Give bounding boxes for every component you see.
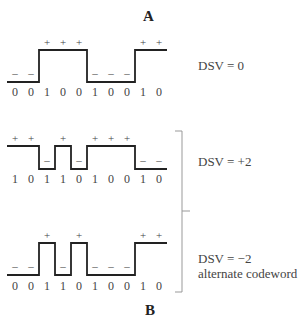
polarity-sign: – bbox=[107, 260, 114, 272]
polarity-sign: – bbox=[27, 260, 34, 272]
polarity-sign: + bbox=[76, 36, 82, 48]
polarity-sign: + bbox=[124, 132, 130, 144]
polarity-sign: + bbox=[44, 36, 50, 48]
polarity-sign: + bbox=[140, 229, 146, 241]
polarity-sign: – bbox=[59, 260, 66, 272]
alternate-codeword-note: alternate codeword bbox=[198, 266, 297, 282]
polarity-sign: + bbox=[140, 36, 146, 48]
polarity-sign: + bbox=[60, 132, 66, 144]
polarity-sign: – bbox=[123, 260, 130, 272]
polarity-sign: – bbox=[123, 67, 130, 79]
polarity-sign: – bbox=[139, 154, 146, 166]
bit-digit: 1 bbox=[92, 279, 98, 293]
bit-digit: 1 bbox=[60, 172, 66, 186]
bit-digit: 0 bbox=[76, 172, 82, 186]
bit-digit: 1 bbox=[140, 85, 146, 99]
bit-digit: 0 bbox=[156, 172, 162, 186]
polarity-sign: – bbox=[91, 67, 98, 79]
bit-digit: 1 bbox=[44, 279, 50, 293]
bit-digit: 1 bbox=[92, 172, 98, 186]
bit-digit: 0 bbox=[12, 279, 18, 293]
polarity-sign: – bbox=[43, 154, 50, 166]
polarity-sign: – bbox=[75, 154, 82, 166]
bit-digit: 0 bbox=[28, 172, 34, 186]
bit-digit: 0 bbox=[156, 85, 162, 99]
polarity-sign: + bbox=[44, 229, 50, 241]
bit-digit: 0 bbox=[12, 85, 18, 99]
polarity-sign: + bbox=[108, 132, 114, 144]
bit-digit: 1 bbox=[44, 172, 50, 186]
polarity-sign: + bbox=[92, 132, 98, 144]
polarity-sign: + bbox=[76, 229, 82, 241]
bit-digit: 0 bbox=[76, 279, 82, 293]
bit-digit: 0 bbox=[124, 172, 130, 186]
polarity-sign: + bbox=[12, 132, 18, 144]
polarity-sign: + bbox=[156, 36, 162, 48]
bit-digit: 1 bbox=[140, 172, 146, 186]
dsv-label-b2: DSV = −2 bbox=[198, 251, 251, 267]
polarity-sign: – bbox=[91, 260, 98, 272]
bit-digit: 1 bbox=[140, 279, 146, 293]
polarity-sign: – bbox=[155, 154, 162, 166]
bit-digit: 0 bbox=[108, 172, 114, 186]
bit-digit: 0 bbox=[60, 85, 66, 99]
bit-digit: 0 bbox=[76, 85, 82, 99]
polarity-sign: – bbox=[11, 260, 18, 272]
bit-digit: 1 bbox=[12, 172, 18, 186]
bit-digit: 1 bbox=[92, 85, 98, 99]
group-bracket bbox=[175, 131, 182, 292]
bit-digit: 0 bbox=[28, 279, 34, 293]
polarity-sign: – bbox=[27, 67, 34, 79]
bit-digit: 0 bbox=[124, 279, 130, 293]
polarity-sign: + bbox=[156, 229, 162, 241]
polarity-sign: + bbox=[60, 36, 66, 48]
dsv-label-b1: DSV = +2 bbox=[198, 154, 251, 170]
polarity-sign: + bbox=[28, 132, 34, 144]
bit-digit: 0 bbox=[124, 85, 130, 99]
polarity-sign: – bbox=[11, 67, 18, 79]
bit-digit: 0 bbox=[28, 85, 34, 99]
bit-digit: 1 bbox=[44, 85, 50, 99]
bit-digit: 0 bbox=[108, 85, 114, 99]
bit-digit: 0 bbox=[156, 279, 162, 293]
bit-digit: 1 bbox=[60, 279, 66, 293]
polarity-sign: – bbox=[107, 67, 114, 79]
dsv-label-a: DSV = 0 bbox=[198, 58, 244, 74]
bit-digit: 0 bbox=[108, 279, 114, 293]
